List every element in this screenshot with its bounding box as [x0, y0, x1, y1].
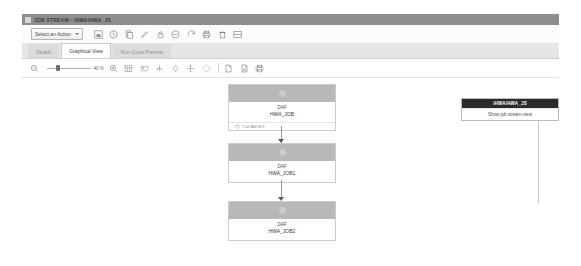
- graph-canvas[interactable]: DAF HWA_JOB 7:00 AM M-F: [22, 78, 559, 252]
- minus-circle-icon[interactable]: [169, 28, 182, 41]
- zoom-out-icon[interactable]: [28, 62, 41, 75]
- zoom-slider-thumb[interactable]: [56, 65, 60, 71]
- diamond-node-icon[interactable]: [169, 62, 182, 75]
- zoom-level-value: 40 %: [94, 66, 104, 71]
- job-stream-context-panel: /HWA/HWA_JS Show job stream view: [461, 98, 559, 121]
- save-icon[interactable]: [92, 28, 105, 41]
- application-root: JOB STREAM - /HWA/HWA_JS Select an Actio…: [0, 0, 581, 266]
- document-icon[interactable]: [222, 62, 235, 75]
- chevron-down-icon: [75, 33, 79, 35]
- tab-graphical-view[interactable]: Graphical View: [61, 43, 111, 58]
- fit-window-icon[interactable]: [138, 62, 151, 75]
- gear-icon: [278, 206, 287, 215]
- window-titlebar: JOB STREAM - /HWA/HWA_JS: [22, 14, 559, 25]
- clock-icon: [235, 124, 240, 129]
- zoom-slider-track: [47, 68, 91, 69]
- graph-node-hwa-job[interactable]: DAF HWA_JOB 7:00 AM M-F: [228, 84, 336, 131]
- window-icon: [25, 17, 31, 23]
- node-name: HWA_JOB2: [229, 228, 335, 235]
- reload-layout-icon[interactable]: [200, 62, 213, 75]
- document-export-icon[interactable]: [238, 62, 251, 75]
- job-stream-panel: JOB STREAM - /HWA/HWA_JS Select an Actio…: [22, 14, 559, 252]
- node-body: DAF HWA_JOB2: [229, 219, 335, 240]
- node-body: DAF HWA_JOB1: [229, 161, 335, 182]
- context-panel-header: /HWA/HWA_JS: [462, 99, 558, 108]
- action-toolbar: Select an Action: [22, 25, 559, 44]
- gear-icon: [278, 148, 287, 157]
- hierarchy-icon[interactable]: [153, 62, 166, 75]
- zoom-slider[interactable]: [47, 63, 91, 73]
- zoom-in-icon[interactable]: [107, 62, 120, 75]
- node-schedule-text: 7:00 AM M-F: [242, 124, 265, 129]
- delete-trash-icon[interactable]: [216, 28, 229, 41]
- context-panel-leader-line: [538, 120, 539, 204]
- node-header: [229, 202, 335, 219]
- edit-pencil-icon[interactable]: [138, 28, 151, 41]
- grid-view-icon[interactable]: [122, 62, 135, 75]
- view-tabs: Details Graphical View Run Cycle Preview: [22, 44, 559, 59]
- window-title: JOB STREAM - /HWA/HWA_JS: [34, 17, 111, 23]
- toolbar-divider: [218, 63, 219, 73]
- lock-icon[interactable]: [154, 28, 167, 41]
- node-header: [229, 144, 335, 161]
- gear-icon: [278, 89, 287, 98]
- tab-run-cycle-preview[interactable]: Run Cycle Preview: [113, 44, 171, 58]
- select-an-action-dropdown[interactable]: Select an Action: [31, 28, 83, 40]
- context-panel-title: /HWA/HWA_JS: [493, 101, 527, 106]
- select-an-action-label: Select an Action: [35, 31, 71, 37]
- clock-icon[interactable]: [107, 28, 120, 41]
- printer-icon[interactable]: [200, 28, 213, 41]
- refresh-icon[interactable]: [185, 28, 198, 41]
- graph-node-hwa-job1[interactable]: DAF HWA_JOB1: [228, 143, 336, 183]
- node-header: [229, 85, 335, 102]
- node-body: DAF HWA_JOB: [229, 102, 335, 120]
- node-schedule-row: 7:00 AM M-F: [229, 122, 335, 130]
- graph-node-hwa-job2[interactable]: DAF HWA_JOB2: [228, 201, 336, 241]
- move-arrows-icon[interactable]: [184, 62, 197, 75]
- graph-view-toolbar: 40 %: [22, 59, 559, 78]
- node-name: HWA_JOB1: [229, 170, 335, 177]
- node-name: HWA_JOB: [229, 111, 335, 118]
- printer-icon[interactable]: [253, 62, 266, 75]
- window-layout-icon[interactable]: [231, 28, 244, 41]
- show-job-stream-view-item[interactable]: Show job stream view: [462, 108, 558, 120]
- tab-details[interactable]: Details: [28, 44, 59, 58]
- copy-icon[interactable]: [123, 28, 136, 41]
